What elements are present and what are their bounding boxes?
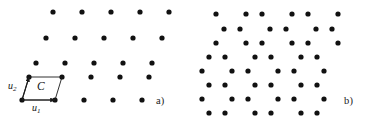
lattice-point	[79, 9, 84, 14]
lattice-point	[314, 54, 319, 59]
lattice-point	[335, 11, 340, 16]
lattice-point	[237, 26, 242, 31]
lattice-figure: a) b) u2 u1 C	[0, 0, 370, 124]
basis-vector-u1-label: u1	[32, 102, 41, 113]
lattice-point	[268, 110, 273, 115]
u1-subscript: 1	[37, 107, 41, 115]
lattice-point	[139, 97, 144, 102]
lattice-point	[275, 96, 280, 101]
lattice-point	[259, 11, 264, 16]
lattice-point	[43, 35, 48, 40]
lattice-point	[314, 82, 319, 87]
lattice-point	[137, 9, 142, 14]
lattice-point	[199, 68, 204, 73]
lattice-point	[291, 68, 296, 73]
lattice-point	[159, 35, 164, 40]
lattice-point	[298, 110, 303, 115]
lattice-point	[245, 96, 250, 101]
lattice-point	[222, 110, 227, 115]
lattice-point	[245, 68, 250, 73]
lattice-point	[229, 68, 234, 73]
lattice-point	[229, 96, 234, 101]
lattice-point	[298, 82, 303, 87]
lattice-point	[88, 74, 93, 79]
lattice-point	[130, 35, 135, 40]
lattice-point	[108, 9, 113, 14]
panel-label-b: b)	[344, 95, 353, 106]
lattice-point	[146, 74, 151, 79]
lattice-point	[291, 96, 296, 101]
lattice-point	[101, 35, 106, 40]
lattice-point	[110, 97, 115, 102]
lattice-point	[120, 60, 125, 65]
lattice-point	[206, 110, 211, 115]
lattice-point	[289, 40, 294, 45]
lattice-canvas	[0, 0, 370, 124]
lattice-point	[329, 26, 334, 31]
basis-vector-u2-label: u2	[8, 80, 17, 91]
lattice-point	[117, 74, 122, 79]
lattice-point	[243, 11, 248, 16]
lattice-point	[267, 26, 272, 31]
lattice-point	[268, 82, 273, 87]
lattice-point	[305, 40, 310, 45]
lattice-point	[252, 82, 257, 87]
unit-cell-label-c: C	[37, 80, 45, 92]
lattice-point	[222, 82, 227, 87]
u2-subscript: 2	[13, 85, 17, 93]
panel-b-dot-group	[199, 11, 340, 115]
lattice-point	[243, 40, 248, 45]
lattice-point	[81, 97, 86, 102]
lattice-point	[252, 110, 257, 115]
lattice-point	[149, 60, 154, 65]
lattice-point	[268, 54, 273, 59]
lattice-point	[72, 35, 77, 40]
lattice-point	[259, 40, 264, 45]
lattice-point	[213, 11, 218, 16]
lattice-point	[62, 60, 67, 65]
lattice-point	[50, 9, 55, 14]
lattice-point	[33, 60, 38, 65]
lattice-point	[252, 54, 257, 59]
lattice-point	[221, 26, 226, 31]
lattice-point	[91, 60, 96, 65]
lattice-point	[213, 40, 218, 45]
lattice-point	[206, 82, 211, 87]
lattice-point	[335, 40, 340, 45]
lattice-point	[313, 26, 318, 31]
lattice-point	[321, 68, 326, 73]
lattice-point	[314, 110, 319, 115]
basis-vector-u2-arrow	[22, 77, 29, 100]
lattice-point	[283, 26, 288, 31]
lattice-point	[305, 11, 310, 16]
lattice-point	[321, 96, 326, 101]
lattice-point	[298, 54, 303, 59]
lattice-point	[166, 9, 171, 14]
panel-label-a: a)	[156, 95, 165, 106]
lattice-point	[199, 96, 204, 101]
lattice-point	[206, 54, 211, 59]
lattice-point	[222, 54, 227, 59]
lattice-point	[275, 68, 280, 73]
lattice-point	[289, 11, 294, 16]
